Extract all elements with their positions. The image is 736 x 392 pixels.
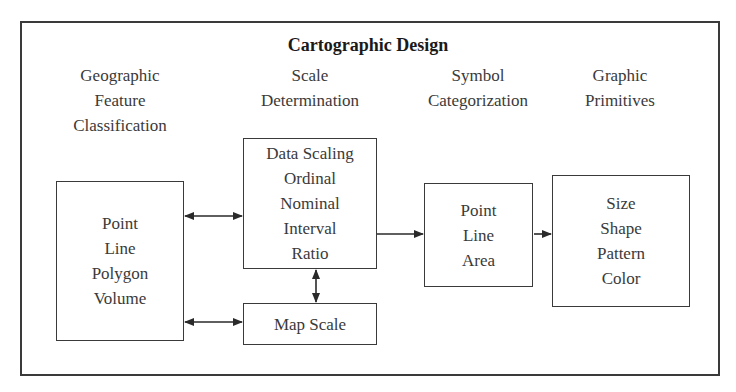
connector-arrows bbox=[0, 0, 736, 392]
